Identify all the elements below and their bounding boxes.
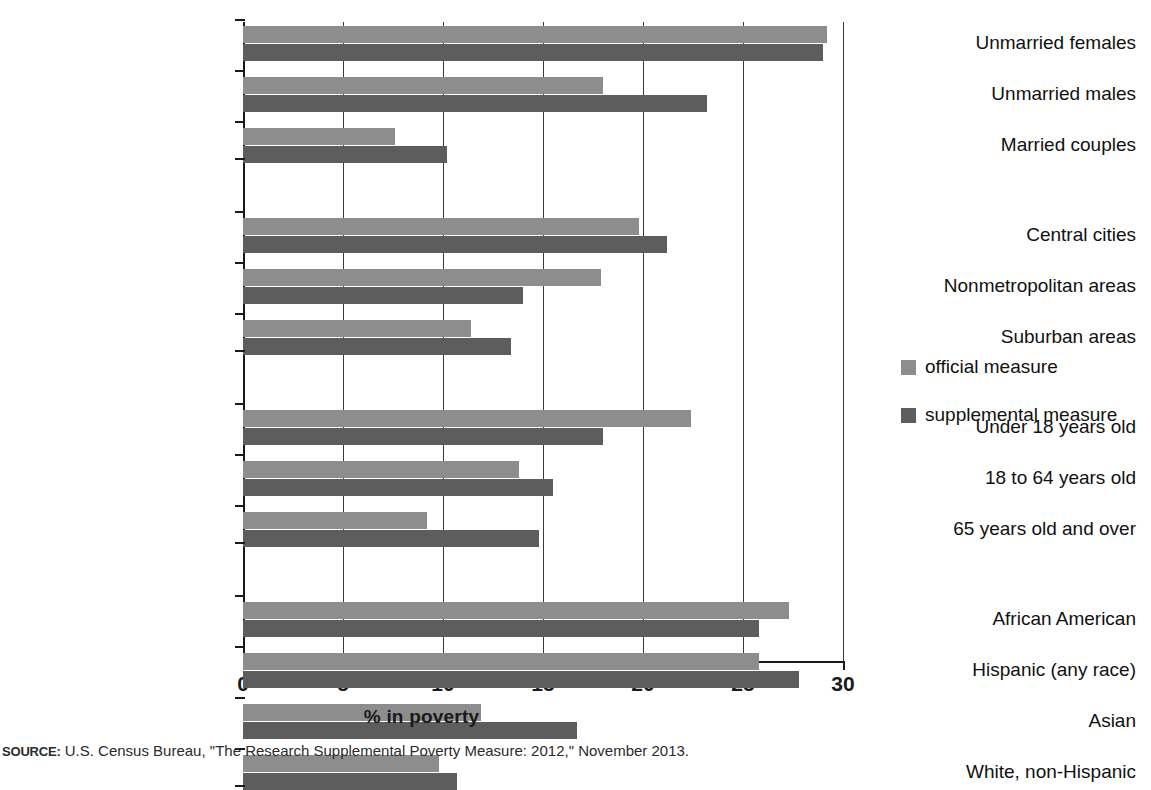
category-tick xyxy=(235,697,245,699)
bar-official xyxy=(243,512,427,529)
bar-official xyxy=(243,77,603,94)
chart-legend: official measure supplemental measure xyxy=(901,356,1141,452)
category-tick xyxy=(235,121,245,123)
source-text: U.S. Census Bureau, "The Research Supple… xyxy=(61,742,689,759)
gridline-20 xyxy=(643,22,644,661)
category-tick xyxy=(235,454,245,456)
bar-supplemental xyxy=(243,530,539,547)
bar-supplemental xyxy=(243,671,799,688)
category-tick xyxy=(235,211,245,213)
category-tick xyxy=(235,19,245,21)
category-label: 18 to 64 years old xyxy=(923,467,1151,489)
category-label: Unmarried females xyxy=(923,32,1151,54)
legend-label-supplemental: supplemental measure xyxy=(925,404,1117,426)
category-label: Nonmetropolitan areas xyxy=(923,275,1151,297)
source-label: SOURCE: xyxy=(2,744,61,759)
bar-supplemental xyxy=(243,428,603,445)
category-label: African American xyxy=(923,608,1151,630)
bar-official xyxy=(243,269,601,286)
group-end-tick xyxy=(235,350,245,352)
category-label: 65 years old and over xyxy=(923,518,1151,540)
bar-supplemental xyxy=(243,146,447,163)
group-end-tick xyxy=(235,785,245,787)
legend-swatch-official-icon xyxy=(901,360,916,375)
bar-official xyxy=(243,602,789,619)
gridline-30 xyxy=(843,22,844,661)
category-label: Married couples xyxy=(923,134,1151,156)
category-tick xyxy=(235,313,245,315)
gridline-15 xyxy=(543,22,544,661)
bar-supplemental xyxy=(243,287,523,304)
legend-swatch-supplemental-icon xyxy=(901,408,916,423)
category-tick xyxy=(235,262,245,264)
bar-official xyxy=(243,410,691,427)
bar-official xyxy=(243,653,759,670)
category-label: Unmarried males xyxy=(923,83,1151,105)
x-axis-label: % in poverty xyxy=(0,706,843,728)
legend-item-official: official measure xyxy=(901,356,1141,378)
bar-supplemental xyxy=(243,44,823,61)
legend-label-official: official measure xyxy=(925,356,1058,378)
category-tick xyxy=(235,595,245,597)
bar-official xyxy=(243,26,827,43)
bar-official xyxy=(243,461,519,478)
bar-supplemental xyxy=(243,95,707,112)
bar-supplemental xyxy=(243,236,667,253)
category-tick xyxy=(235,403,245,405)
bar-official xyxy=(243,218,639,235)
bar-supplemental xyxy=(243,479,553,496)
bar-official xyxy=(243,128,395,145)
category-label: Asian xyxy=(923,710,1151,732)
category-label: Suburban areas xyxy=(923,326,1151,348)
category-tick xyxy=(235,70,245,72)
bar-supplemental xyxy=(243,338,511,355)
category-tick xyxy=(235,505,245,507)
bar-official xyxy=(243,320,471,337)
bar-supplemental xyxy=(243,773,457,790)
x-tick-label-30: 30 xyxy=(813,672,873,696)
group-end-tick xyxy=(235,542,245,544)
category-tick xyxy=(235,646,245,648)
x-tick-30 xyxy=(843,661,845,670)
bar-supplemental xyxy=(243,620,759,637)
gridline-25 xyxy=(743,22,744,661)
category-label: Hispanic (any race) xyxy=(923,659,1151,681)
category-label: Central cities xyxy=(923,224,1151,246)
category-label: White, non-Hispanic xyxy=(923,761,1151,783)
legend-item-supplemental: supplemental measure xyxy=(901,404,1141,426)
source-note: SOURCE: U.S. Census Bureau, "The Researc… xyxy=(2,742,689,759)
group-end-tick xyxy=(235,158,245,160)
